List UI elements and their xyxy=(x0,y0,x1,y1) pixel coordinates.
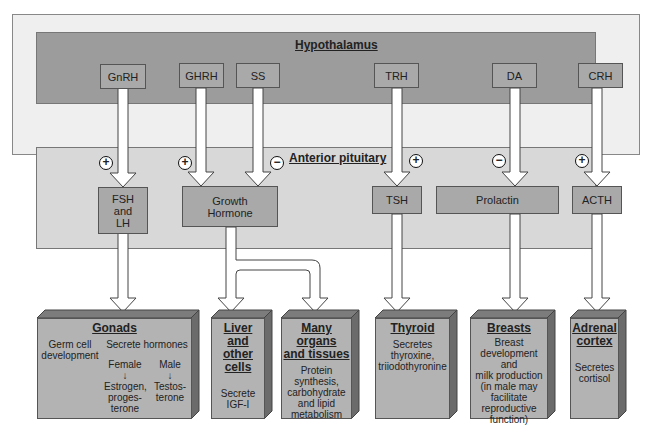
male-column: Male ↓ Testos- terone xyxy=(150,359,190,414)
gonads-left-col: Germ cell development xyxy=(40,339,100,361)
thyroid-body-3: triiodothyronine xyxy=(376,361,449,372)
breasts-body-5: facilitate xyxy=(471,392,547,403)
female-label: Female xyxy=(104,359,146,370)
breasts-body-3: milk production xyxy=(471,370,547,381)
secrete-hormones-label: Secrete hormones xyxy=(102,339,192,350)
organs-title-2: and tissues xyxy=(282,348,351,361)
organs-body-2: carbohydrate xyxy=(282,387,351,398)
target-adrenal-cortex: Adrenal cortex Secretes cortisol xyxy=(570,318,619,419)
male-out-1: Testos- xyxy=(150,381,190,392)
liver-body-2: IGF-I xyxy=(212,399,264,410)
liver-title-2: other cells xyxy=(212,348,264,374)
organs-title-1: Many organs xyxy=(282,322,351,348)
germ-cell-line-2: development xyxy=(40,350,100,361)
breasts-body-2: development and xyxy=(471,348,547,370)
adrenal-title-2: cortex xyxy=(571,335,618,348)
gonads-right-col: Secrete hormones Female ↓ Estrogen, prog… xyxy=(102,339,192,414)
liver-body-1: Secrete xyxy=(212,388,264,399)
female-column: Female ↓ Estrogen, proges- terone xyxy=(104,359,146,414)
target-liver: Liver and other cells Secrete IGF-I xyxy=(211,318,265,419)
male-label: Male xyxy=(150,359,190,370)
breasts-body-4: (in male may xyxy=(471,381,547,392)
target-gonads: Gonads Germ cell development Secrete hor… xyxy=(37,318,192,419)
thyroid-body-1: Secretes xyxy=(376,339,449,350)
female-out-1: Estrogen, xyxy=(104,381,146,392)
down-arrow-icon: ↓ xyxy=(104,370,146,381)
target-many-organs: Many organs and tissues Protein synthesi… xyxy=(281,318,352,419)
down-arrow-icon: ↓ xyxy=(150,370,190,381)
organs-body-1: Protein synthesis, xyxy=(282,365,351,387)
thyroid-body-2: thyroxine, xyxy=(376,350,449,361)
breasts-title: Breasts xyxy=(471,322,547,335)
male-out-2: terone xyxy=(150,392,190,403)
female-out-3: terone xyxy=(104,403,146,414)
target-breasts: Breasts Breast development and milk prod… xyxy=(470,318,548,419)
germ-cell-line-1: Germ cell xyxy=(40,339,100,350)
thyroid-title: Thyroid xyxy=(376,322,449,335)
organs-body-4: metabolism xyxy=(282,409,351,420)
target-thyroid: Thyroid Secretes thyroxine, triiodothyro… xyxy=(375,318,450,419)
breasts-body-1: Breast xyxy=(471,337,547,348)
breasts-body-6: reproductive xyxy=(471,403,547,414)
female-out-2: proges- xyxy=(104,392,146,403)
adrenal-body-1: Secretes xyxy=(571,362,618,373)
organs-body-3: and lipid xyxy=(282,398,351,409)
liver-title-1: Liver and xyxy=(212,322,264,348)
adrenal-body-2: cortisol xyxy=(571,373,618,384)
gonads-title: Gonads xyxy=(38,322,191,335)
breasts-body-7: function) xyxy=(471,414,547,425)
